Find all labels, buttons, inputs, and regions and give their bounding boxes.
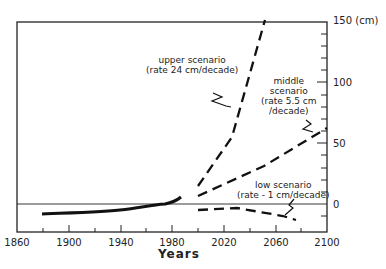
- upper-scenario-rate: (rate 24 cm/decade): [146, 65, 238, 75]
- y-tick-0: 0: [333, 199, 339, 210]
- low-scenario-rate: (rate - 1 cm/decade): [237, 190, 330, 200]
- upper-scenario-annotation: upper scenario (rate 24 cm/decade): [146, 55, 238, 75]
- middle-pointer: [303, 120, 313, 132]
- low-scenario-line: [198, 208, 296, 220]
- x-tick-2020: 2020: [211, 237, 236, 248]
- x-tick-2100: 2100: [314, 237, 339, 248]
- low-scenario-annotation: low scenario (rate - 1 cm/decade): [237, 180, 330, 200]
- middle-scenario-title-1: middle: [261, 76, 317, 86]
- middle-scenario-title-2: scenario: [261, 86, 317, 96]
- y-tick-150: 150 (cm): [333, 15, 378, 26]
- x-tick-1940: 1940: [108, 237, 133, 248]
- x-tick-2060: 2060: [263, 237, 288, 248]
- upper-scenario-line: [198, 20, 265, 186]
- y-tick-100: 100: [333, 77, 352, 88]
- y-tick-50: 50: [333, 138, 346, 149]
- middle-scenario-annotation: middle scenario (rate 5.5 cm /decade): [261, 76, 317, 116]
- chart-canvas: [0, 0, 386, 269]
- middle-scenario-rate-2: /decade): [261, 106, 317, 116]
- x-tick-1900: 1900: [56, 237, 81, 248]
- x-tick-1860: 1860: [4, 237, 29, 248]
- x-axis-ticks: [43, 225, 301, 232]
- upper-pointer: [212, 93, 231, 107]
- low-scenario-title: low scenario: [237, 180, 330, 190]
- middle-scenario-rate-1: (rate 5.5 cm: [261, 96, 317, 106]
- historical-line: [42, 197, 181, 214]
- upper-scenario-title: upper scenario: [146, 55, 238, 65]
- low-pointer: [285, 199, 294, 215]
- x-axis-title: Years: [158, 247, 200, 261]
